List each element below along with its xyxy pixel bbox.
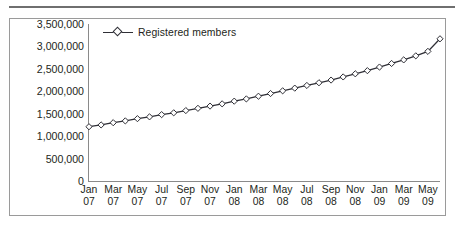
- x-tick-month: May: [418, 184, 438, 195]
- x-axis-labels: Jan07Mar07May07Jul07Sep07Nov07Jan08Mar08…: [0, 0, 464, 233]
- x-tick-year: 07: [155, 196, 168, 208]
- x-tick-month: Nov: [346, 184, 364, 195]
- x-tick-year: 09: [371, 196, 388, 208]
- x-tick-year: 07: [177, 196, 196, 208]
- x-tick-year: 08: [346, 196, 364, 208]
- x-tick-month: Nov: [201, 184, 219, 195]
- x-axis-tick-label: Jan07: [81, 184, 98, 209]
- x-tick-month: Mar: [104, 184, 122, 195]
- x-axis-tick-label: Sep08: [322, 184, 341, 209]
- x-axis-tick-label: Nov07: [201, 184, 219, 209]
- x-tick-month: Jan: [226, 184, 243, 195]
- x-tick-year: 08: [300, 196, 313, 208]
- x-tick-year: 07: [201, 196, 219, 208]
- x-tick-year: 08: [226, 196, 243, 208]
- x-tick-month: Mar: [395, 184, 413, 195]
- x-axis-tick-label: May08: [273, 184, 293, 209]
- x-tick-month: May: [273, 184, 293, 195]
- x-tick-year: 07: [81, 196, 98, 208]
- x-tick-month: Sep: [322, 184, 341, 195]
- x-tick-month: Jan: [81, 184, 98, 195]
- x-axis-tick-label: May07: [128, 184, 148, 209]
- x-tick-month: May: [128, 184, 148, 195]
- x-axis-tick-label: Jan09: [371, 184, 388, 209]
- x-axis-tick-label: Jul07: [155, 184, 168, 209]
- x-tick-month: Mar: [249, 184, 267, 195]
- chart-page: 0500,0001,000,0001,500,0002,000,0002,500…: [0, 0, 464, 233]
- x-tick-month: Jan: [371, 184, 388, 195]
- x-tick-year: 07: [128, 196, 148, 208]
- x-tick-year: 08: [273, 196, 293, 208]
- x-tick-month: Sep: [177, 184, 196, 195]
- x-axis-tick-label: May09: [418, 184, 438, 209]
- x-tick-year: 08: [322, 196, 341, 208]
- x-axis-tick-label: Nov08: [346, 184, 364, 209]
- x-tick-month: Jul: [155, 184, 168, 195]
- x-axis-tick-label: Jul08: [300, 184, 313, 209]
- x-tick-year: 07: [104, 196, 122, 208]
- x-tick-year: 09: [418, 196, 438, 208]
- x-axis-tick-label: Jan08: [226, 184, 243, 209]
- x-tick-year: 09: [395, 196, 413, 208]
- x-tick-year: 08: [249, 196, 267, 208]
- x-axis-tick-label: Mar09: [395, 184, 413, 209]
- x-axis-tick-label: Mar07: [104, 184, 122, 209]
- x-tick-month: Jul: [300, 184, 313, 195]
- x-axis-tick-label: Sep07: [177, 184, 196, 209]
- x-axis-tick-label: Mar08: [249, 184, 267, 209]
